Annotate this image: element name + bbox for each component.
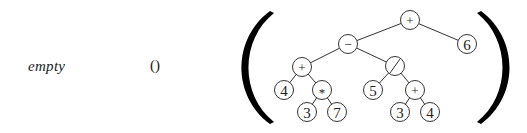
tree-node-n3b: 3 [391,103,410,122]
tree-node-minus: − [339,35,358,54]
tree-node-mul: * [313,81,332,100]
node-label: + [411,83,418,98]
close-parenthesis [477,11,510,124]
tree-node-n6: 6 [458,35,477,54]
tree-node-n7: 7 [328,103,347,122]
expression-tree-diagram: +6−+4*5+3734 [0,0,527,133]
tree-node-n5: 5 [364,81,383,100]
tree-node-plusR: + [406,81,425,100]
tree-node-n3a: 3 [298,103,317,122]
tree-node-plusL: + [293,58,312,77]
open-parenthesis [242,11,275,124]
tree-node-root: + [401,11,420,30]
node-label: + [406,13,413,28]
node-label: 4 [426,105,434,121]
node-label: 3 [303,105,311,121]
node-label: 4 [280,83,288,99]
tree-node-div [386,57,405,76]
node-label: * [319,85,326,100]
node-label: 6 [463,37,471,53]
node-label: 5 [369,83,377,99]
tree-node-n4b: 4 [421,103,440,122]
node-label: 7 [333,105,341,121]
node-label: + [298,60,305,75]
tree-nodes: +6−+4*5+3734 [275,11,477,122]
tree-node-n4a: 4 [275,81,294,100]
node-label: − [344,37,351,52]
node-label: 3 [396,105,404,121]
